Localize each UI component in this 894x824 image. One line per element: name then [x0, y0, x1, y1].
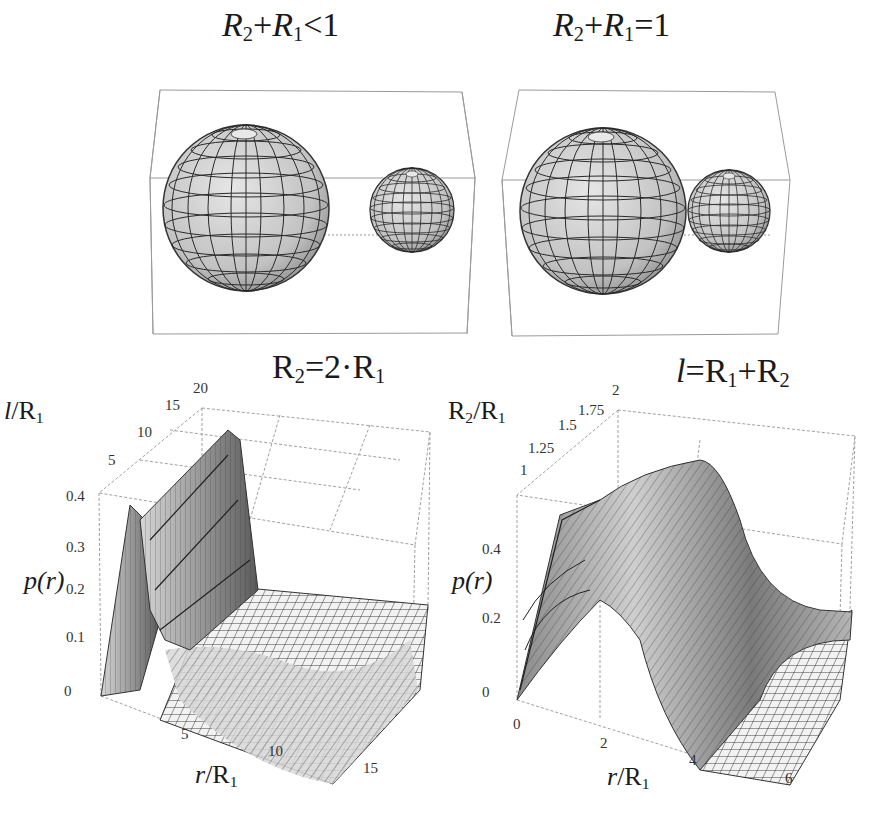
z-tick: 0.4: [482, 541, 501, 558]
surface-bottom-left: [101, 430, 428, 784]
title-subscript: 1: [727, 369, 737, 391]
y-tick: 15: [165, 397, 180, 414]
z-tick: 0.2: [482, 610, 501, 627]
y-tick: 1.5: [558, 417, 577, 434]
axis-symbol: R: [212, 760, 229, 789]
x-axis-label-bottom-left: r/R1: [195, 760, 238, 791]
panel-title-bottom-left: R2=2·R1: [272, 348, 385, 388]
x-tick: 10: [268, 743, 283, 760]
y-tick: 1.25: [528, 440, 554, 457]
axis-text: p(r): [24, 566, 64, 595]
z-tick: 0.1: [66, 629, 85, 646]
small-sphere-top-left: [370, 168, 454, 252]
y-axis-label-bottom-left: l/R1: [4, 396, 44, 427]
axis-subscript: 1: [36, 409, 44, 426]
title-symbol: R: [757, 352, 780, 389]
x-tick: 0: [513, 716, 521, 733]
axis-subscript: 1: [642, 775, 650, 792]
z-axis-label-bottom-right: p(r): [452, 566, 492, 596]
y-tick: 2: [612, 382, 620, 399]
y-tick: 5: [108, 452, 116, 469]
title-operator: +: [738, 352, 757, 389]
axis-symbol: r: [195, 760, 205, 789]
y-tick: 20: [193, 380, 208, 397]
title-subscript: 1: [375, 365, 385, 387]
small-sphere-top-right: [688, 170, 770, 252]
z-axis-label-bottom-left: p(r): [24, 566, 64, 596]
y-tick: 1: [520, 462, 528, 479]
axis-symbol: r: [607, 762, 617, 791]
axis-symbol: R: [448, 396, 465, 425]
x-tick: 5: [181, 726, 189, 743]
title-symbol: R: [705, 352, 728, 389]
y-tick: 1.75: [578, 402, 604, 419]
x-tick: 2: [600, 735, 608, 752]
x-tick: 4: [689, 752, 697, 769]
axis-text: p(r): [452, 566, 492, 595]
axis-symbol: R: [480, 396, 497, 425]
title-subscript: 2: [779, 369, 789, 391]
large-sphere-top-right: [520, 128, 686, 294]
panel-title-bottom-right: l=R1+R2: [676, 352, 790, 392]
z-tick: 0.4: [66, 488, 85, 505]
surface-bottom-right: [517, 460, 852, 785]
title-relation: =2·: [305, 348, 353, 385]
title-relation: =: [685, 352, 704, 389]
figure-canvas: [0, 0, 894, 824]
y-tick: 10: [137, 424, 152, 441]
y-axis-label-bottom-right: R2/R1: [448, 396, 506, 427]
z-tick: 0: [64, 683, 72, 700]
axis-subscript: 1: [498, 409, 506, 426]
x-tick: 6: [785, 770, 793, 787]
axis-symbol: R: [624, 762, 641, 791]
x-tick: 15: [363, 760, 378, 777]
z-tick: 0.2: [66, 581, 85, 598]
x-axis-label-bottom-right: r/R1: [607, 762, 650, 793]
axis-subscript: 2: [465, 409, 473, 426]
title-subscript: 2: [295, 365, 305, 387]
axis-subscript: 1: [230, 773, 238, 790]
title-symbol: R: [352, 348, 375, 385]
z-tick: 0: [482, 684, 490, 701]
z-tick: 0.3: [66, 539, 85, 556]
axis-symbol: R: [18, 396, 35, 425]
large-sphere-top-left: [163, 125, 329, 291]
title-symbol: R: [272, 348, 295, 385]
